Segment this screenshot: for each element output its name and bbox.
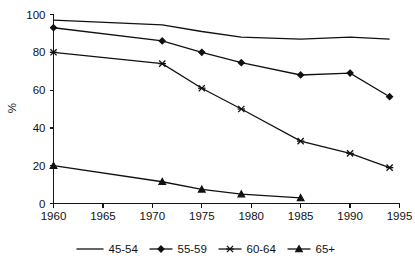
marker-cross — [386, 164, 393, 170]
legend-item-45-54[interactable]: 45-54 — [77, 243, 139, 255]
marker-cross-legend — [226, 246, 233, 252]
x-axis-tick-label: 1965 — [90, 210, 116, 222]
marker-cross — [198, 85, 205, 91]
x-axis-tick-label: 1995 — [387, 210, 413, 222]
series-line — [54, 52, 390, 167]
axes-layer: 1960196519701975198019851990199502040608… — [26, 9, 412, 222]
legend-item-65plus[interactable]: 65+ — [288, 243, 336, 255]
series-60-64 — [50, 49, 394, 170]
marker-cross — [238, 106, 245, 112]
x-axis-tick-label: 1960 — [41, 210, 67, 222]
marker-cross — [159, 61, 166, 67]
series-layer — [50, 20, 394, 200]
y-axis-title: % — [6, 103, 18, 113]
y-axis-tick-label: 80 — [33, 46, 46, 58]
marker-diamond — [298, 72, 304, 78]
series-65plus — [50, 162, 304, 200]
y-axis-tick-label: 100 — [26, 9, 45, 21]
series-55-59 — [50, 25, 392, 100]
marker-diamond — [50, 25, 56, 31]
marker-diamond — [387, 94, 393, 100]
marker-diamond — [159, 38, 165, 44]
series-45-54 — [54, 20, 390, 39]
marker-cross — [297, 138, 304, 144]
x-axis-tick-label: 1985 — [288, 210, 314, 222]
legend-label: 60-64 — [247, 243, 277, 255]
y-axis-tick-label: 60 — [33, 84, 46, 96]
series-line — [54, 166, 301, 198]
line-chart: 1960196519701975198019851990199502040608… — [0, 0, 415, 263]
y-axis-tick-label: 20 — [33, 160, 46, 172]
legend-label: 55-59 — [178, 243, 207, 255]
x-axis-tick-label: 1990 — [337, 210, 363, 222]
chart-canvas: 1960196519701975198019851990199502040608… — [0, 0, 415, 263]
series-line — [54, 20, 390, 39]
legend-label: 45-54 — [109, 243, 139, 255]
marker-diamond-legend — [158, 246, 164, 252]
marker-cross — [346, 150, 353, 156]
legend-layer: 45-5455-5960-6465+ — [77, 243, 336, 255]
x-axis-tick-label: 1975 — [189, 210, 215, 222]
y-axis-tick-label: 0 — [39, 198, 45, 210]
x-axis-tick-label: 1980 — [238, 210, 264, 222]
x-axis-tick-label: 1970 — [140, 210, 166, 222]
marker-diamond — [347, 70, 353, 76]
legend-item-60-64[interactable]: 60-64 — [219, 243, 277, 255]
legend-item-55-59[interactable]: 55-59 — [150, 243, 207, 255]
marker-diamond — [238, 60, 244, 66]
legend-label: 65+ — [316, 243, 336, 255]
y-axis-tick-label: 40 — [33, 122, 46, 134]
marker-diamond — [199, 49, 205, 55]
